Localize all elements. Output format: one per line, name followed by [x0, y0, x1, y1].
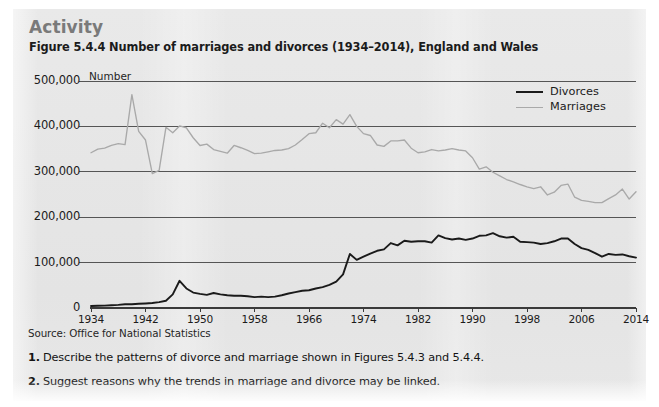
chart-canvas [0, 0, 659, 407]
legend-swatch-divorces [516, 91, 543, 93]
y-axis-tick-label: 300,000 [18, 164, 80, 178]
chart-legend: Divorces Marriages [516, 84, 636, 114]
series-line-divorces [91, 233, 636, 306]
x-axis-tick-label: 1942 [124, 313, 168, 325]
y-axis-tick-label: 100,000 [18, 255, 80, 269]
source-line: Source: Office for National Statistics [28, 327, 210, 339]
scanned-page: Activity Figure 5.4.4 Number of marriage… [0, 0, 659, 407]
line-chart: Number 0100,000200,000300,000400,000500,… [0, 0, 659, 407]
x-axis-tick-label: 1974 [342, 313, 386, 325]
y-axis-tick-label: 0 [18, 300, 80, 314]
question-number-1: 1. [28, 351, 43, 364]
x-axis-tick-label: 1958 [233, 313, 277, 325]
legend-item-divorces: Divorces [516, 84, 636, 99]
y-axis-tick-label: 500,000 [18, 73, 80, 87]
legend-label-divorces: Divorces [550, 84, 599, 99]
x-axis-tick-label: 2006 [560, 313, 604, 325]
legend-swatch-marriages [516, 107, 543, 108]
y-axis-tick-label: 400,000 [18, 118, 80, 132]
x-axis-tick-label: 1998 [505, 313, 549, 325]
y-axis-tick-label: 200,000 [18, 209, 80, 223]
page-bottom-shade [13, 380, 646, 401]
x-axis-tick-label: 1990 [451, 313, 495, 325]
legend-label-marriages: Marriages [550, 99, 606, 114]
legend-item-marriages: Marriages [516, 99, 636, 114]
x-axis-tick-label: 1982 [396, 313, 440, 325]
x-axis-tick-label: 1934 [69, 313, 113, 325]
x-axis-tick-label: 2014 [614, 313, 658, 325]
y-axis-unit-label: Number [89, 70, 131, 82]
question-text-1: Describe the patterns of divorce and mar… [43, 351, 484, 364]
x-axis-tick-label: 1966 [287, 313, 331, 325]
question-item-1: 1.Describe the patterns of divorce and m… [28, 351, 484, 364]
x-axis-tick-label: 1950 [178, 313, 222, 325]
